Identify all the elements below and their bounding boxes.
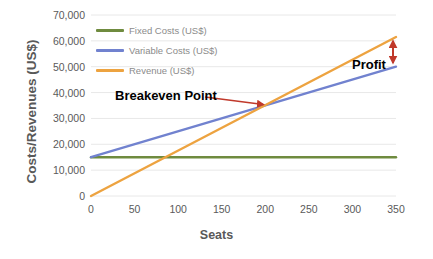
legend-swatch-icon [96, 49, 124, 52]
breakeven-chart: Costs/Revenues (US$) 010,00020,00030,000… [0, 0, 433, 259]
breakeven-point-annotation: Breakeven Point [115, 88, 217, 103]
legend-swatch-icon [96, 29, 124, 32]
legend-item: Revenue (US$) [96, 62, 218, 78]
legend-item-label: Fixed Costs (US$) [129, 25, 207, 36]
legend-item-label: Revenue (US$) [129, 65, 194, 76]
legend-item: Fixed Costs (US$) [96, 22, 218, 38]
legend-item: Variable Costs (US$) [96, 42, 218, 58]
profit-annotation: Profit [352, 57, 386, 72]
legend-item-label: Variable Costs (US$) [129, 45, 218, 56]
legend-swatch-icon [96, 69, 124, 72]
x-axis-title: Seats [0, 228, 433, 242]
legend: Fixed Costs (US$)Variable Costs (US$)Rev… [96, 22, 218, 82]
